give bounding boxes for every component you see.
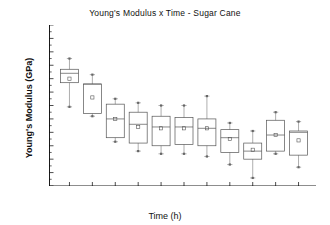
chart-container: Young's Modulus x Time - Sugar Cane Youn… (0, 0, 330, 225)
extreme-marker-upper (275, 111, 277, 113)
extreme-marker-lower (206, 155, 208, 157)
box-iqr (198, 119, 216, 146)
extreme-marker-upper (297, 121, 299, 123)
boxplot-svg: 4.04.14.24.34.44.54.64.74.84.95.05.15.20… (48, 25, 316, 186)
extreme-marker-lower (183, 153, 185, 155)
box-plot-group (267, 111, 285, 155)
box-plot-group (83, 74, 101, 118)
extreme-marker-upper (91, 74, 93, 76)
x-axis-title: Time (h) (0, 211, 330, 221)
box-plot-group (198, 95, 216, 158)
box-iqr (267, 120, 285, 151)
mean-marker (68, 77, 71, 80)
extreme-marker-lower (114, 141, 116, 143)
box-plot-group (175, 104, 193, 154)
extreme-marker-lower (160, 153, 162, 155)
extreme-marker-upper (183, 104, 185, 106)
box-plot-group (221, 122, 239, 166)
box-iqr (129, 112, 147, 143)
extreme-marker-lower (252, 177, 254, 179)
box-plot-group (106, 98, 124, 143)
extreme-marker-lower (297, 166, 299, 168)
mean-marker (297, 139, 300, 142)
box-iqr (106, 104, 124, 138)
box-plot-group (129, 102, 147, 153)
box-plot-group (290, 121, 308, 169)
extreme-marker-upper (160, 104, 162, 106)
extreme-marker-upper (114, 98, 116, 100)
mean-marker (91, 96, 94, 99)
y-axis-title: Young's Modulus (GPa) (24, 33, 34, 183)
extreme-marker-upper (137, 102, 139, 104)
box-plot-group (152, 104, 170, 154)
box-iqr (221, 130, 239, 153)
extreme-marker-lower (275, 153, 277, 155)
chart-title: Young's Modulus x Time - Sugar Cane (0, 8, 330, 18)
mean-marker (137, 125, 140, 128)
extreme-marker-lower (68, 106, 70, 108)
extreme-marker-lower (137, 150, 139, 152)
plot-area: 4.04.14.24.34.44.54.64.74.84.95.05.15.20… (48, 25, 316, 186)
extreme-marker-lower (229, 163, 231, 165)
box-plot-group (60, 57, 78, 108)
extreme-marker-lower (91, 115, 93, 117)
box-iqr (152, 116, 170, 146)
extreme-marker-upper (206, 95, 208, 97)
extreme-marker-upper (68, 57, 70, 59)
extreme-marker-upper (229, 122, 231, 124)
extreme-marker-upper (252, 130, 254, 132)
box-iqr (290, 131, 308, 155)
box-plot-group (244, 130, 262, 179)
box-iqr (60, 69, 78, 82)
box-iqr (175, 118, 193, 145)
